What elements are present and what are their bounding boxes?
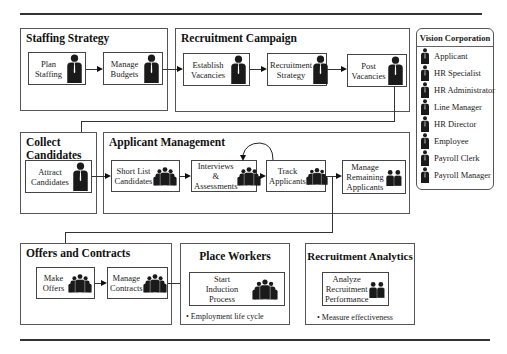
person-icon bbox=[420, 65, 430, 81]
people-group-icon bbox=[143, 272, 167, 294]
group-title: Collect Candidates bbox=[26, 136, 82, 162]
legend-item-hr-administrator: HR Administrator bbox=[417, 81, 493, 98]
people-group-icon bbox=[153, 165, 177, 187]
step-analyze-recruitment-performance[interactable]: Analyze Recruitment Performance bbox=[322, 272, 389, 306]
step-label: Track Applicants bbox=[267, 166, 306, 186]
legend-label: HR Specialist bbox=[434, 68, 481, 78]
arrow-right-icon bbox=[177, 66, 183, 72]
person-icon bbox=[387, 56, 404, 85]
legend-label: Payroll Manager bbox=[434, 170, 491, 180]
people-pair-icon bbox=[385, 169, 403, 186]
step-label: Analyze Recruitment Performance bbox=[323, 274, 368, 304]
person-icon bbox=[420, 150, 430, 166]
connector-line bbox=[163, 69, 178, 70]
legend-item-hr-director: HR Director bbox=[417, 115, 493, 132]
connector-line bbox=[65, 232, 333, 233]
legend-label: HR Administrator bbox=[434, 85, 495, 95]
connector-line bbox=[326, 176, 336, 177]
arrow-right-icon bbox=[341, 66, 347, 72]
step-post-vacancies[interactable]: Post Vacancies bbox=[347, 54, 407, 87]
top-rule bbox=[20, 13, 482, 15]
connector-line bbox=[327, 69, 341, 70]
arrow-right-icon bbox=[97, 66, 103, 72]
feedback-loop-arrow bbox=[230, 140, 280, 162]
step-label: Manage Budgets bbox=[104, 59, 143, 79]
arrow-right-icon bbox=[336, 173, 342, 179]
legend-item-employee: Employee bbox=[417, 132, 493, 149]
person-icon bbox=[420, 167, 430, 183]
step-label: Manage Remaining Applicants bbox=[343, 162, 385, 192]
step-manage-remaining-applicants[interactable]: Manage Remaining Applicants bbox=[342, 160, 406, 194]
step-make-offers[interactable]: Make Offers bbox=[36, 267, 95, 299]
legend-label: Applicant bbox=[434, 51, 468, 61]
legend-title: Vision Corporation bbox=[417, 29, 493, 47]
person-icon bbox=[420, 116, 430, 132]
step-attract-candidates[interactable]: Attract Candidates bbox=[25, 160, 92, 193]
person-icon bbox=[420, 133, 430, 149]
connector-line bbox=[394, 87, 395, 121]
connector-line bbox=[332, 176, 333, 233]
step-label: Manage Contracts bbox=[108, 273, 143, 293]
person-icon bbox=[143, 54, 160, 83]
legend-label: HR Director bbox=[434, 119, 476, 129]
legend-label: Line Manager bbox=[434, 102, 482, 112]
step-label: Interviews & Assessments bbox=[192, 161, 237, 191]
arrow-right-icon bbox=[101, 280, 107, 286]
note-measure-effectiveness: • Measure effectiveness bbox=[317, 313, 393, 322]
group-title: Offers and Contracts bbox=[26, 247, 130, 260]
step-manage-budgets[interactable]: Manage Budgets bbox=[103, 52, 163, 85]
arrow-right-icon bbox=[261, 66, 267, 72]
legend-item-hr-specialist: HR Specialist bbox=[417, 64, 493, 81]
people-group-icon bbox=[68, 272, 92, 294]
person-icon bbox=[420, 82, 430, 98]
legend-item-line-manager: Line Manager bbox=[417, 98, 493, 115]
group-title: Staffing Strategy bbox=[26, 32, 109, 45]
step-label: Attract Candidates bbox=[26, 167, 72, 187]
people-group-icon bbox=[252, 278, 278, 300]
step-recruitment-strategy[interactable]: Recruitment Strategy bbox=[267, 53, 327, 86]
step-plan-staffing[interactable]: Plan Staffing bbox=[28, 52, 86, 85]
connector-line bbox=[81, 121, 395, 122]
step-label: Establish Vacancies bbox=[184, 60, 230, 80]
group-title: Recruitment Analytics bbox=[306, 250, 414, 263]
step-label: Post Vacancies bbox=[348, 61, 387, 81]
person-icon bbox=[420, 48, 430, 64]
legend-label: Employee bbox=[434, 136, 468, 146]
people-pair-icon bbox=[368, 281, 386, 298]
step-establish-vacancies[interactable]: Establish Vacancies bbox=[183, 53, 250, 86]
step-manage-contracts[interactable]: Manage Contracts bbox=[107, 267, 168, 299]
group-title: Recruitment Campaign bbox=[181, 32, 297, 45]
person-icon bbox=[66, 54, 83, 83]
person-icon bbox=[72, 162, 89, 191]
arrow-right-icon bbox=[260, 173, 266, 179]
legend-item-payroll-manager: Payroll Manager bbox=[417, 166, 493, 183]
legend-item-payroll-clerk: Payroll Clerk bbox=[417, 149, 493, 166]
legend-label: Payroll Clerk bbox=[434, 153, 480, 163]
step-label: Start Induction Process bbox=[190, 274, 252, 304]
person-icon bbox=[230, 55, 247, 84]
legend-panel: Vision Corporation Applicant HR Speciali… bbox=[416, 28, 494, 190]
step-track-applicants[interactable]: Track Applicants bbox=[266, 160, 326, 192]
step-label: Short List Candidates bbox=[112, 166, 153, 186]
step-label: Make Offers bbox=[37, 273, 68, 293]
step-start-induction-process[interactable]: Start Induction Process bbox=[189, 272, 285, 306]
arrow-right-icon bbox=[185, 173, 191, 179]
step-label: Plan Staffing bbox=[29, 59, 66, 79]
step-label: Recruitment Strategy bbox=[268, 60, 312, 80]
step-short-list-candidates[interactable]: Short List Candidates bbox=[111, 160, 180, 192]
group-title: Applicant Management bbox=[109, 136, 225, 149]
people-group-icon bbox=[306, 165, 328, 187]
step-interviews-assessments[interactable]: Interviews & Assessments bbox=[191, 160, 257, 192]
connector-line bbox=[92, 176, 105, 177]
group-title: Place Workers bbox=[181, 250, 289, 263]
person-icon bbox=[420, 99, 430, 115]
arrow-right-icon bbox=[105, 173, 111, 179]
note-employment-life-cycle: • Employment life cycle bbox=[186, 312, 264, 321]
bottom-rule bbox=[20, 339, 490, 341]
legend-item-applicant: Applicant bbox=[417, 47, 493, 64]
